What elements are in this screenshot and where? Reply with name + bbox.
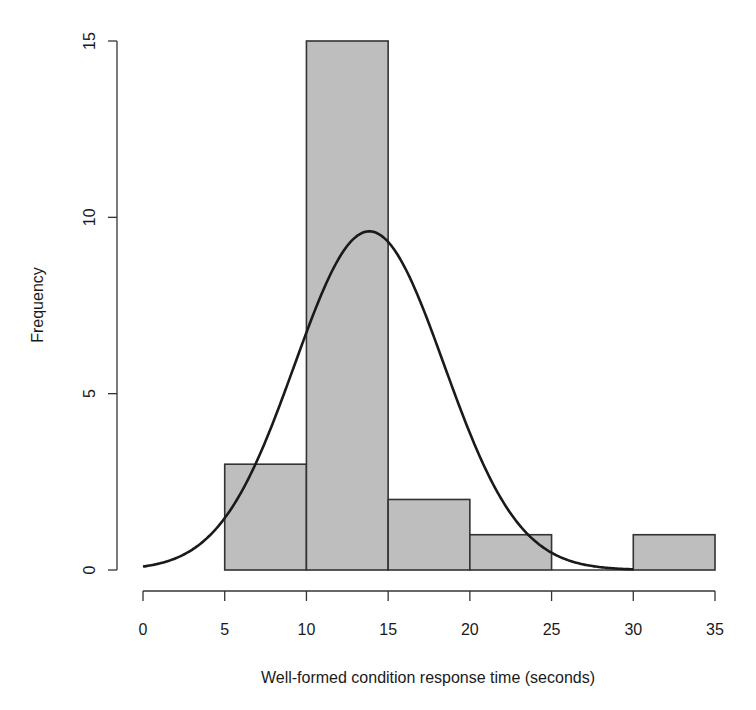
x-axis-title: Well-formed condition response time (sec…	[261, 669, 595, 686]
y-tick-label: 0	[81, 565, 98, 574]
y-tick-label: 15	[81, 32, 98, 50]
y-axis: 051015	[81, 32, 117, 574]
y-tick-label: 10	[81, 208, 98, 226]
x-tick-label: 30	[624, 621, 642, 638]
histogram-bar	[225, 464, 307, 570]
histogram-bar	[306, 41, 388, 570]
histogram-bar	[470, 535, 552, 570]
histogram-bars	[225, 41, 715, 570]
histogram-chart: 051015 05101520253035 Well-formed condit…	[0, 0, 756, 710]
x-tick-label: 35	[706, 621, 724, 638]
x-tick-label: 20	[461, 621, 479, 638]
histogram-bar	[633, 535, 715, 570]
x-tick-label: 15	[379, 621, 397, 638]
y-axis-title: Frequency	[29, 267, 46, 343]
histogram-bar	[388, 499, 470, 570]
x-tick-label: 0	[139, 621, 148, 638]
x-axis: 05101520253035	[139, 591, 724, 638]
x-tick-label: 10	[298, 621, 316, 638]
y-tick-label: 5	[81, 389, 98, 398]
x-tick-label: 25	[543, 621, 561, 638]
x-tick-label: 5	[220, 621, 229, 638]
